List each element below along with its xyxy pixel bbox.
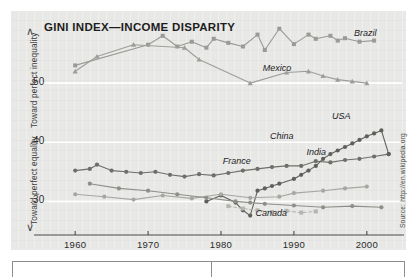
data-point-usa <box>73 169 77 173</box>
x-tick-label-1970: 1970 <box>137 239 159 250</box>
figure-page: GINI INDEX—INCOME DISPARITY .50 .40 .30 … <box>0 0 417 277</box>
data-point-france <box>379 205 383 209</box>
data-point-china <box>204 199 208 203</box>
data-point-usa <box>139 171 143 175</box>
data-point-usa <box>226 171 230 175</box>
data-point-china <box>255 189 259 193</box>
x-tick-label-1960: 1960 <box>64 239 86 250</box>
data-point-usa <box>88 167 92 171</box>
data-point-india <box>248 196 252 200</box>
data-point-usa <box>285 164 289 168</box>
data-point-brazil <box>358 40 362 44</box>
data-point-usa <box>110 169 114 173</box>
x-tick-label-1990: 1990 <box>283 239 305 250</box>
data-point-mexico <box>73 69 78 74</box>
data-point-india <box>292 191 296 195</box>
data-point-usa <box>168 173 172 177</box>
data-point-china <box>365 134 369 138</box>
gini-line-chart <box>0 0 417 277</box>
data-point-france <box>263 202 267 206</box>
data-point-usa <box>212 173 216 177</box>
data-point-china <box>292 177 296 181</box>
data-point-usa <box>328 160 332 164</box>
data-point-brazil <box>277 27 281 31</box>
data-point-france <box>248 201 252 205</box>
data-point-usa <box>270 165 274 169</box>
data-point-france <box>88 182 92 186</box>
data-point-brazil <box>307 33 311 37</box>
bottom-frame-divider <box>211 261 212 277</box>
data-point-india <box>365 185 369 189</box>
data-point-france <box>204 196 208 200</box>
data-point-usa <box>299 164 303 168</box>
data-point-brazil <box>372 39 376 43</box>
data-point-usa <box>357 157 361 161</box>
data-point-france <box>234 199 238 203</box>
data-point-india <box>190 196 194 200</box>
data-point-china <box>277 182 281 186</box>
data-point-china <box>387 152 391 156</box>
data-point-brazil <box>314 37 318 41</box>
data-point-brazil <box>161 34 165 38</box>
data-point-china <box>306 169 310 173</box>
bottom-frame <box>12 261 405 277</box>
data-point-china <box>270 184 274 188</box>
x-tick-label-2000: 2000 <box>356 239 378 250</box>
data-point-usa <box>124 170 128 174</box>
data-point-france <box>350 204 354 208</box>
data-point-brazil <box>263 48 267 52</box>
series-label-usa: USA <box>332 111 351 121</box>
data-point-france <box>175 192 179 196</box>
axis-layer <box>34 231 404 235</box>
axis-label-equality: Toward perfect equality <box>30 136 39 225</box>
data-point-india <box>102 195 106 199</box>
data-point-brazil <box>73 63 77 67</box>
data-point-china <box>321 157 325 161</box>
data-point-india <box>73 192 77 196</box>
data-point-usa <box>241 169 245 173</box>
data-point-brazil <box>190 40 194 44</box>
data-point-india <box>343 186 347 190</box>
data-point-china <box>350 141 354 145</box>
data-point-usa <box>255 167 259 171</box>
data-point-brazil <box>328 34 332 38</box>
data-point-canada <box>299 211 303 215</box>
data-point-france <box>321 205 325 209</box>
data-point-canada <box>226 204 230 208</box>
x-tick-label-1980: 1980 <box>210 239 232 250</box>
data-point-china <box>379 128 383 132</box>
data-point-india <box>219 192 223 196</box>
data-point-brazil <box>256 33 260 37</box>
series-label-mexico: Mexico <box>263 63 292 73</box>
data-point-usa <box>314 159 318 163</box>
data-point-india <box>321 189 325 193</box>
data-point-india <box>161 193 165 197</box>
data-point-china <box>336 148 340 152</box>
axis-label-inequality: Toward perfect inequality <box>30 32 39 128</box>
data-point-china <box>328 152 332 156</box>
series-label-india: India <box>307 147 327 157</box>
data-point-usa <box>197 172 201 176</box>
data-point-france <box>292 203 296 207</box>
data-point-canada <box>241 207 245 211</box>
data-point-china <box>263 186 267 190</box>
data-point-china <box>314 164 318 168</box>
chevron-down-icon: ∨ <box>26 222 34 233</box>
data-point-usa <box>343 158 347 162</box>
data-point-china <box>299 173 303 177</box>
data-point-china <box>372 131 376 135</box>
chart-title: GINI INDEX—INCOME DISPARITY <box>44 21 235 33</box>
data-point-india <box>277 195 281 199</box>
data-point-brazil <box>212 37 216 41</box>
data-point-india <box>131 198 135 202</box>
data-point-brazil <box>241 45 245 49</box>
data-point-france <box>146 189 150 193</box>
data-point-china <box>248 214 252 218</box>
series-label-china: China <box>270 131 294 141</box>
data-point-brazil <box>292 42 296 46</box>
data-point-france <box>117 186 121 190</box>
data-point-brazil <box>226 41 230 45</box>
series-layer <box>73 27 391 218</box>
data-point-china <box>357 138 361 142</box>
data-point-usa <box>153 170 157 174</box>
